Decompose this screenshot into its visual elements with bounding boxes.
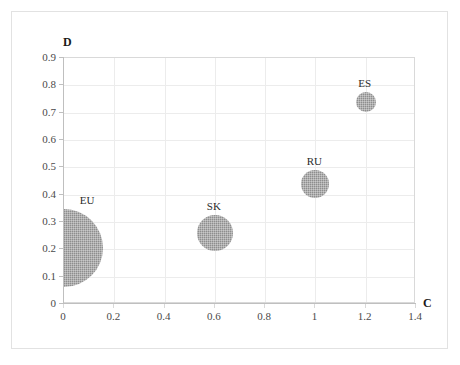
y-tick-mark — [59, 276, 63, 277]
y-tick-mark — [59, 248, 63, 249]
x-tick-mark — [63, 304, 64, 308]
x-tick-mark — [214, 304, 215, 308]
x-tick-mark — [164, 304, 165, 308]
y-tick-mark — [59, 112, 63, 113]
x-tick-label: 0.2 — [106, 311, 120, 322]
x-tick-mark — [365, 304, 366, 308]
y-tick-label: 0.3 — [42, 216, 56, 227]
gridline-horizontal — [64, 113, 414, 114]
x-axis-line — [63, 303, 416, 304]
bubble-sk[interactable] — [197, 215, 233, 251]
y-tick-label: 0.5 — [42, 161, 56, 172]
bubble-label-ru: RU — [307, 156, 322, 167]
y-tick-mark — [59, 84, 63, 85]
gridline-horizontal — [64, 222, 414, 223]
x-tick-mark — [314, 304, 315, 308]
y-tick-label: 0.8 — [42, 79, 56, 90]
x-tick-mark — [415, 304, 416, 308]
gridline-horizontal — [64, 277, 414, 278]
gridline-horizontal — [64, 140, 414, 141]
x-axis-title: C — [423, 297, 432, 309]
y-tick-label: 0.2 — [42, 243, 56, 254]
x-tick-label: 1.4 — [408, 311, 422, 322]
x-tick-label: 1 — [312, 311, 318, 322]
y-tick-mark — [59, 166, 63, 167]
x-tick-mark — [264, 304, 265, 308]
gridline-vertical — [165, 58, 166, 302]
y-axis-line — [63, 57, 64, 304]
x-tick-mark — [113, 304, 114, 308]
bubble-es[interactable] — [356, 92, 376, 112]
bubble-label-eu: EU — [80, 195, 95, 206]
y-tick-mark — [59, 221, 63, 222]
bubble-label-es: ES — [358, 78, 371, 89]
plot-area — [63, 57, 415, 303]
gridline-vertical — [114, 58, 115, 302]
y-tick-mark — [59, 57, 63, 58]
x-tick-label: 0.8 — [257, 311, 271, 322]
gridline-horizontal — [64, 195, 414, 196]
bubble-chart: 0.90.80.70.60.50.40.30.20.10 00.20.40.60… — [0, 0, 460, 365]
y-tick-mark — [59, 139, 63, 140]
y-tick-label: 0.1 — [42, 270, 56, 281]
y-tick-label: 0 — [51, 298, 57, 309]
y-tick-label: 0.6 — [42, 134, 56, 145]
y-tick-label: 0.4 — [42, 188, 56, 199]
x-tick-label: 0.4 — [157, 311, 171, 322]
y-axis-title: D — [63, 36, 72, 48]
x-tick-label: 1.2 — [358, 311, 372, 322]
y-tick-label: 0.7 — [42, 106, 56, 117]
x-tick-label: 0.6 — [207, 311, 221, 322]
bubble-eu[interactable] — [63, 209, 103, 287]
y-tick-mark — [59, 194, 63, 195]
bubble-label-sk: SK — [207, 201, 221, 212]
y-tick-label: 0.9 — [42, 52, 56, 63]
gridline-horizontal — [64, 249, 414, 250]
x-tick-label: 0 — [60, 311, 66, 322]
bubble-ru[interactable] — [301, 170, 329, 198]
gridline-vertical — [215, 58, 216, 302]
gridline-horizontal — [64, 167, 414, 168]
gridline-vertical — [265, 58, 266, 302]
